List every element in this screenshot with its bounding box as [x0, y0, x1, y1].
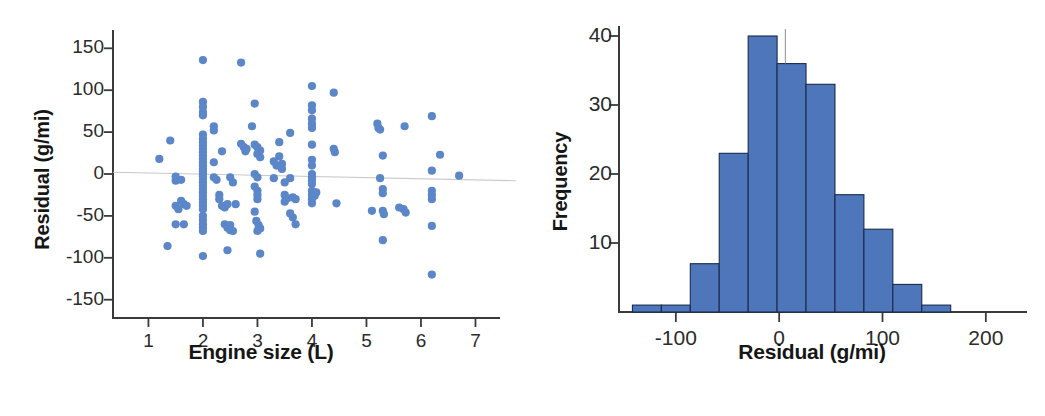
scatter-point: [275, 138, 283, 146]
histogram-y-tick-label: 40: [550, 23, 612, 47]
scatter-point: [428, 270, 436, 278]
scatter-point: [241, 147, 249, 155]
histogram-bar: [835, 195, 864, 312]
scatter-point: [218, 147, 226, 155]
scatter-point: [308, 82, 316, 90]
scatter-point: [270, 174, 278, 182]
scatter-point: [281, 198, 289, 206]
scatter-point: [275, 152, 283, 160]
scatter-point: [308, 199, 316, 207]
scatter-point: [210, 126, 218, 134]
histogram-panel: -1000100200 10203040 Residual (g/mi) Fre…: [522, 0, 1045, 416]
scatter-point: [292, 195, 300, 203]
scatter-point: [428, 195, 436, 203]
scatter-point: [312, 188, 320, 196]
scatter-point: [166, 136, 174, 144]
scatter-point: [376, 174, 384, 182]
histogram-bar: [806, 84, 835, 312]
scatter-point: [379, 189, 387, 197]
histogram-bar: [893, 284, 922, 312]
histogram-bar: [748, 36, 777, 312]
scatter-point: [232, 200, 240, 208]
scatter-point: [172, 220, 180, 228]
scatter-point: [428, 167, 436, 175]
scatter-point: [251, 100, 259, 108]
histogram-bars-group: [632, 36, 950, 312]
scatter-point: [436, 151, 444, 159]
histogram-bar: [632, 305, 661, 312]
scatter-point: [332, 199, 340, 207]
scatter-point: [212, 176, 220, 184]
scatter-point: [376, 125, 384, 133]
scatter-axes: [104, 30, 500, 327]
scatter-point: [428, 222, 436, 230]
scatter-point: [380, 210, 388, 218]
scatter-point: [379, 151, 387, 159]
scatter-point: [368, 207, 376, 215]
scatter-point: [402, 208, 410, 216]
scatter-point: [256, 250, 264, 258]
figure-two-panel-residual-plots: 1234567 150100500-50-100-150 Engine size…: [0, 0, 1045, 416]
scatter-points-group: [155, 56, 463, 279]
scatter-point: [401, 122, 409, 130]
histogram-bar: [864, 229, 893, 312]
scatter-point: [256, 153, 264, 161]
scatter-point: [180, 220, 188, 228]
scatter-point: [253, 227, 261, 235]
scatter-point: [199, 252, 207, 260]
scatter-point: [163, 242, 171, 250]
scatter-point: [199, 227, 207, 235]
scatter-x-axis-title: Engine size (L): [0, 340, 522, 364]
scatter-point: [308, 141, 316, 149]
scatter-point: [210, 158, 218, 166]
scatter-point: [330, 89, 338, 97]
scatter-point: [286, 174, 294, 182]
histogram-bar: [922, 305, 951, 312]
scatter-point: [199, 56, 207, 64]
scatter-point: [155, 155, 163, 163]
scatter-point: [223, 246, 231, 254]
scatter-point: [251, 208, 259, 216]
histogram-bar: [690, 264, 719, 312]
scatter-y-axis-title: Residual (g/mi): [31, 46, 54, 314]
scatter-point: [253, 173, 261, 181]
scatter-point: [253, 195, 261, 203]
scatter-point: [308, 106, 316, 114]
scatter-point: [379, 236, 387, 244]
scatter-point: [223, 200, 231, 208]
histogram-x-axis-title: Residual (g/mi): [612, 340, 1012, 364]
scatter-point: [237, 58, 245, 66]
histogram-bar: [661, 305, 690, 312]
scatter-point: [229, 227, 237, 235]
scatter-point: [292, 220, 300, 228]
scatter-point: [286, 129, 294, 137]
scatter-panel: 1234567 150100500-50-100-150 Engine size…: [0, 0, 522, 416]
scatter-point: [182, 202, 190, 210]
histogram-bar: [777, 64, 806, 312]
histogram-y-axis-title: Frequency: [549, 62, 572, 302]
scatter-point: [229, 178, 237, 186]
scatter-point: [248, 122, 256, 130]
histogram-bar: [719, 153, 748, 312]
scatter-point: [331, 148, 339, 156]
scatter-point: [278, 165, 286, 173]
scatter-point: [308, 162, 316, 170]
scatter-point: [308, 124, 316, 132]
scatter-point: [428, 112, 436, 120]
scatter-point: [199, 111, 207, 119]
scatter-point: [177, 176, 185, 184]
scatter-point: [455, 172, 463, 180]
